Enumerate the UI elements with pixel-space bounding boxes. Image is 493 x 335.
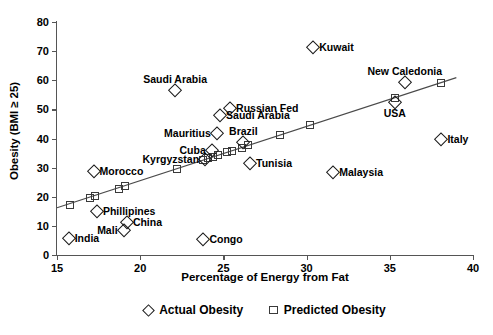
y-tick-label: 60 bbox=[37, 74, 49, 86]
data-point-label: Cuba bbox=[180, 145, 206, 156]
data-point-label: Congo bbox=[209, 234, 242, 245]
y-tick-label: 80 bbox=[37, 16, 49, 28]
data-point-predicted[interactable] bbox=[437, 79, 445, 87]
legend-item-actual-obesity[interactable]: Actual Obesity bbox=[144, 303, 243, 317]
x-tick-mark bbox=[57, 255, 58, 260]
y-tick-mark bbox=[52, 80, 57, 81]
data-point-label: China bbox=[133, 216, 162, 227]
y-tick-label: 20 bbox=[37, 191, 49, 203]
data-point-predicted[interactable] bbox=[173, 165, 181, 173]
y-tick-label: 50 bbox=[37, 103, 49, 115]
y-axis-title: Obesity (BMI ≥ 25) bbox=[0, 0, 28, 262]
y-tick-label: 70 bbox=[37, 45, 49, 57]
x-tick-mark bbox=[390, 255, 391, 260]
y-tick-mark bbox=[52, 168, 57, 169]
x-tick-mark bbox=[473, 255, 474, 260]
data-point-label: Russian Fed bbox=[236, 103, 298, 114]
x-tick-mark bbox=[140, 255, 141, 260]
data-point-predicted[interactable] bbox=[306, 121, 314, 129]
data-point-label: USA bbox=[384, 108, 406, 119]
data-point-predicted[interactable] bbox=[91, 192, 99, 200]
data-point-label: Italy bbox=[447, 134, 468, 145]
y-tick-mark bbox=[52, 226, 57, 227]
legend-label-predicted-obesity: Predicted Obesity bbox=[284, 303, 386, 317]
data-point-predicted[interactable] bbox=[228, 147, 236, 155]
y-tick-mark bbox=[52, 51, 57, 52]
legend-label-actual-obesity: Actual Obesity bbox=[159, 303, 243, 317]
y-tick-label: 0 bbox=[43, 249, 49, 261]
chart-legend: Actual Obesity Predicted Obesity bbox=[57, 303, 473, 317]
data-point-label: Mali bbox=[97, 225, 117, 236]
data-point-label: Saudi Arabia bbox=[143, 74, 207, 85]
y-tick-label: 40 bbox=[37, 133, 49, 145]
y-axis-title-text: Obesity (BMI ≥ 25) bbox=[8, 82, 20, 180]
y-tick-mark bbox=[52, 22, 57, 23]
data-point-predicted[interactable] bbox=[276, 131, 284, 139]
data-point-label: Kuwait bbox=[319, 42, 353, 53]
data-point-predicted[interactable] bbox=[121, 182, 129, 190]
diamond-marker-icon bbox=[142, 304, 155, 317]
x-axis-title: Percentage of Energy from Fat bbox=[57, 271, 473, 283]
data-point-label: India bbox=[75, 233, 100, 244]
data-point-label: Brazil bbox=[229, 125, 258, 136]
obesity-vs-fat-scatter-chart: Obesity (BMI ≥ 25) 01020304050607080 152… bbox=[0, 0, 493, 335]
y-tick-label: 10 bbox=[37, 220, 49, 232]
y-tick-label: 30 bbox=[37, 162, 49, 174]
data-point-label: New Caledonia bbox=[367, 65, 442, 76]
data-point-label: Mauritius bbox=[164, 127, 211, 138]
data-point-label: Morocco bbox=[100, 166, 144, 177]
regression-trendline bbox=[57, 22, 473, 255]
x-tick-mark bbox=[307, 255, 308, 260]
y-tick-mark bbox=[52, 139, 57, 140]
legend-item-predicted-obesity[interactable]: Predicted Obesity bbox=[269, 303, 386, 317]
y-tick-mark bbox=[52, 109, 57, 110]
plot-area: 01020304050607080 152025303540 IndiaMoro… bbox=[57, 22, 473, 255]
x-tick-mark bbox=[223, 255, 224, 260]
data-point-label: Tunisia bbox=[256, 158, 292, 169]
square-marker-icon bbox=[269, 306, 278, 315]
data-point-label: Malaysia bbox=[339, 167, 383, 178]
y-tick-mark bbox=[52, 197, 57, 198]
data-point-predicted[interactable] bbox=[66, 201, 74, 209]
